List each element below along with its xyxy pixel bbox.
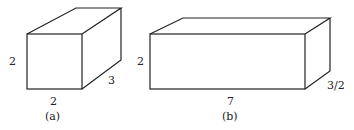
box-a-width-label: 2: [50, 96, 57, 107]
box-a-caption: (a): [45, 111, 60, 122]
box-b-width-label: 7: [227, 96, 234, 107]
box-b-depth-label: 3/2: [327, 80, 345, 91]
box-a-depth-label: 3: [108, 75, 115, 86]
box-b-caption: (b): [222, 111, 238, 122]
box-a: [27, 8, 121, 89]
box-a-height-label: 2: [9, 56, 16, 67]
box-b-height-label: 2: [137, 56, 144, 67]
box-b: [150, 18, 330, 89]
